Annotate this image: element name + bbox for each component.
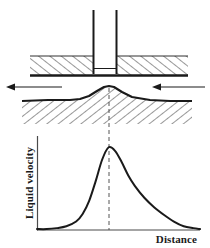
x-axis-label: Distance (156, 233, 197, 245)
force-arrow-left (6, 84, 62, 91)
upper-workpiece-group (28, 54, 191, 78)
plot-axes (37, 136, 200, 231)
force-arrow-right-head (152, 84, 161, 91)
lower-workpiece-group (18, 82, 198, 128)
figure-root: Liquid velocity Distance (0, 0, 210, 248)
y-axis-label: Liquid velocity (23, 147, 35, 219)
liquid-velocity-curve (37, 147, 200, 229)
diagram-canvas: Liquid velocity Distance (0, 0, 210, 248)
tool-nozzle-group (93, 10, 117, 74)
lower-workpiece-hatch (18, 82, 198, 128)
force-arrow-right (152, 84, 205, 91)
force-arrow-left-head (6, 84, 15, 91)
